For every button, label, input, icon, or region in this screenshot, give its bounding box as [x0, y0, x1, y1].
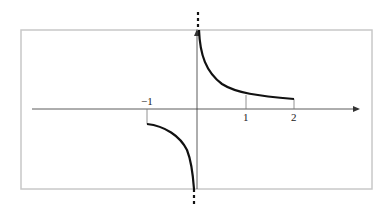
- curve-left-branch: [147, 124, 194, 189]
- tick-label-1: 1: [243, 111, 249, 123]
- x-axis-arrow-icon: [353, 106, 360, 112]
- chart-frame: [21, 30, 372, 189]
- curve-right-branch: [199, 30, 294, 99]
- drop-lines: [147, 95, 294, 124]
- chart: −1 1 2: [0, 0, 391, 216]
- tick-label-2: 2: [291, 111, 297, 123]
- tick-label-neg1: −1: [141, 95, 153, 107]
